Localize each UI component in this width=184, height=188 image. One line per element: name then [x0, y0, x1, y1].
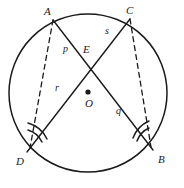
- point-label-d: D: [16, 156, 24, 167]
- segment-label-r: r: [55, 83, 59, 93]
- center-dot: [85, 89, 90, 94]
- point-label-e: E: [83, 44, 90, 55]
- circle-geometry-figure: A C D B E O p s r q: [0, 0, 184, 188]
- segment-ad-dashed: [30, 20, 53, 148]
- point-label-a: A: [44, 6, 51, 17]
- chord-ab: [53, 20, 153, 150]
- point-label-c: C: [126, 5, 133, 16]
- segment-label-s: s: [105, 26, 109, 36]
- geometry-canvas: [0, 0, 184, 188]
- point-label-b: B: [158, 154, 165, 165]
- segment-label-p: p: [63, 44, 68, 54]
- segment-label-q: q: [116, 106, 121, 116]
- angle-arc-b-inner: [137, 128, 149, 141]
- point-label-o: O: [85, 98, 93, 109]
